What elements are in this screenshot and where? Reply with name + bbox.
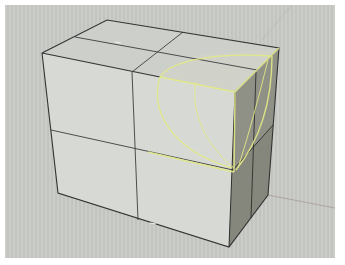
3d-viewport[interactable]	[5, 5, 335, 258]
construction-axis-line	[262, 5, 292, 40]
construction-axis-line	[268, 195, 335, 210]
scene-canvas[interactable]	[5, 5, 335, 258]
